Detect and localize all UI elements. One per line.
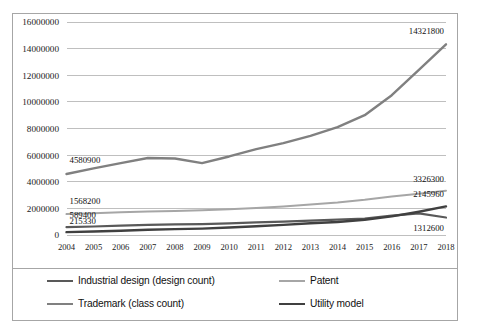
data-point-labels-group: 4580900156820058940021533014321800332630… <box>70 26 445 232</box>
legend-items: Industrial design (design count)PatentTr… <box>13 275 457 309</box>
y-axis-tick-label: 12000000 <box>22 71 59 81</box>
x-axis-tick-label: 2016 <box>383 242 401 252</box>
y-axis-tick-label: 6000000 <box>27 151 60 161</box>
x-axis-tick-labels: 2004200520062007200820092010201120122013… <box>58 242 455 252</box>
x-axis-tick-label: 2006 <box>112 242 130 252</box>
x-axis-tick-label: 2009 <box>193 242 210 252</box>
data-point-label: 215330 <box>70 216 97 226</box>
x-axis-tick-label: 2004 <box>58 242 76 252</box>
legend-color-swatch <box>279 303 305 305</box>
x-axis-tick-label: 2013 <box>302 242 319 252</box>
x-axis-tick-label: 2015 <box>356 242 373 252</box>
data-point-label: 1312600 <box>413 223 444 233</box>
y-axis-tick-label: 2000000 <box>27 204 60 214</box>
x-axis-tick-label: 2007 <box>139 242 157 252</box>
legend-color-swatch <box>47 303 73 305</box>
series-line <box>67 44 447 174</box>
x-axis-tick-label: 2005 <box>85 242 102 252</box>
data-point-label: 1568200 <box>70 196 101 206</box>
chart-legend: Industrial design (design count)PatentTr… <box>13 268 457 320</box>
data-point-label: 14321800 <box>409 26 445 36</box>
chart-figure: 0200000040000006000000800000010000000120… <box>0 0 478 336</box>
y-axis-tick-label: 14000000 <box>22 44 59 54</box>
legend-item-label: Utility model <box>310 298 364 309</box>
legend-item-label: Trademark (class count) <box>78 298 184 309</box>
series-lines-group <box>67 44 447 232</box>
gridlines-group <box>67 22 447 235</box>
legend-item[interactable]: Industrial design (design count) <box>47 275 279 286</box>
legend-color-swatch <box>47 280 73 282</box>
x-axis-tick-label: 2008 <box>166 242 183 252</box>
legend-item[interactable]: Trademark (class count) <box>47 298 279 309</box>
x-axis-tick-label: 2011 <box>248 242 265 252</box>
x-axis-tick-label: 2017 <box>410 242 428 252</box>
y-axis-tick-label: 10000000 <box>22 97 59 107</box>
y-axis-tick-label: 8000000 <box>27 124 60 134</box>
legend-item-label: Industrial design (design count) <box>78 275 215 286</box>
x-axis-tick-label: 2012 <box>275 242 292 252</box>
legend-item[interactable]: Patent <box>279 275 478 286</box>
data-point-label: 2145960 <box>413 189 444 199</box>
x-axis-tick-label: 2014 <box>329 242 347 252</box>
legend-color-swatch <box>279 280 305 282</box>
x-axis-tick-label: 2018 <box>437 242 454 252</box>
data-point-label: 4580900 <box>70 155 101 165</box>
y-axis-tick-label: 0 <box>54 230 59 240</box>
series-line <box>67 191 447 214</box>
legend-item[interactable]: Utility model <box>279 298 478 309</box>
data-point-label: 3326300 <box>413 174 444 184</box>
y-axis-tick-labels: 0200000040000006000000800000010000000120… <box>22 17 59 240</box>
y-axis-tick-label: 4000000 <box>27 177 60 187</box>
series-line <box>67 206 447 232</box>
x-axis-tick-label: 2010 <box>221 242 238 252</box>
y-axis-tick-label: 16000000 <box>22 17 59 27</box>
legend-item-label: Patent <box>310 275 339 286</box>
